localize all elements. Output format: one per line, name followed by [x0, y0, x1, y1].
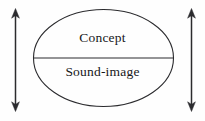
sound-image-label: Sound-image	[0, 64, 205, 80]
diagram-canvas	[0, 0, 205, 121]
saussure-sign-diagram: Concept Sound-image	[0, 0, 205, 121]
right-double-arrow	[188, 9, 196, 112]
left-double-arrow	[12, 9, 20, 112]
concept-label: Concept	[0, 30, 205, 46]
